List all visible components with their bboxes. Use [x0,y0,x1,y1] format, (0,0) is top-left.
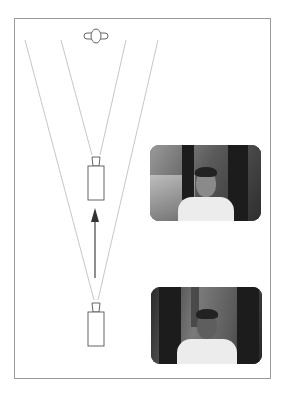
shot-near-photo: Close shot of bearded man in white sweat… [150,145,261,221]
fov-line-far-left [25,40,94,300]
dolly-forward-arrow-icon [91,208,99,278]
fov-line-near-right [100,40,126,155]
shot-far-photo: Shot of bearded man in white sweater in … [151,287,262,364]
fov-line-near-left [61,40,92,155]
camera-near-icon [88,157,104,200]
camera-far-icon [88,303,104,346]
fov-line-far-right [98,40,158,300]
person-top-view-icon [84,29,108,43]
